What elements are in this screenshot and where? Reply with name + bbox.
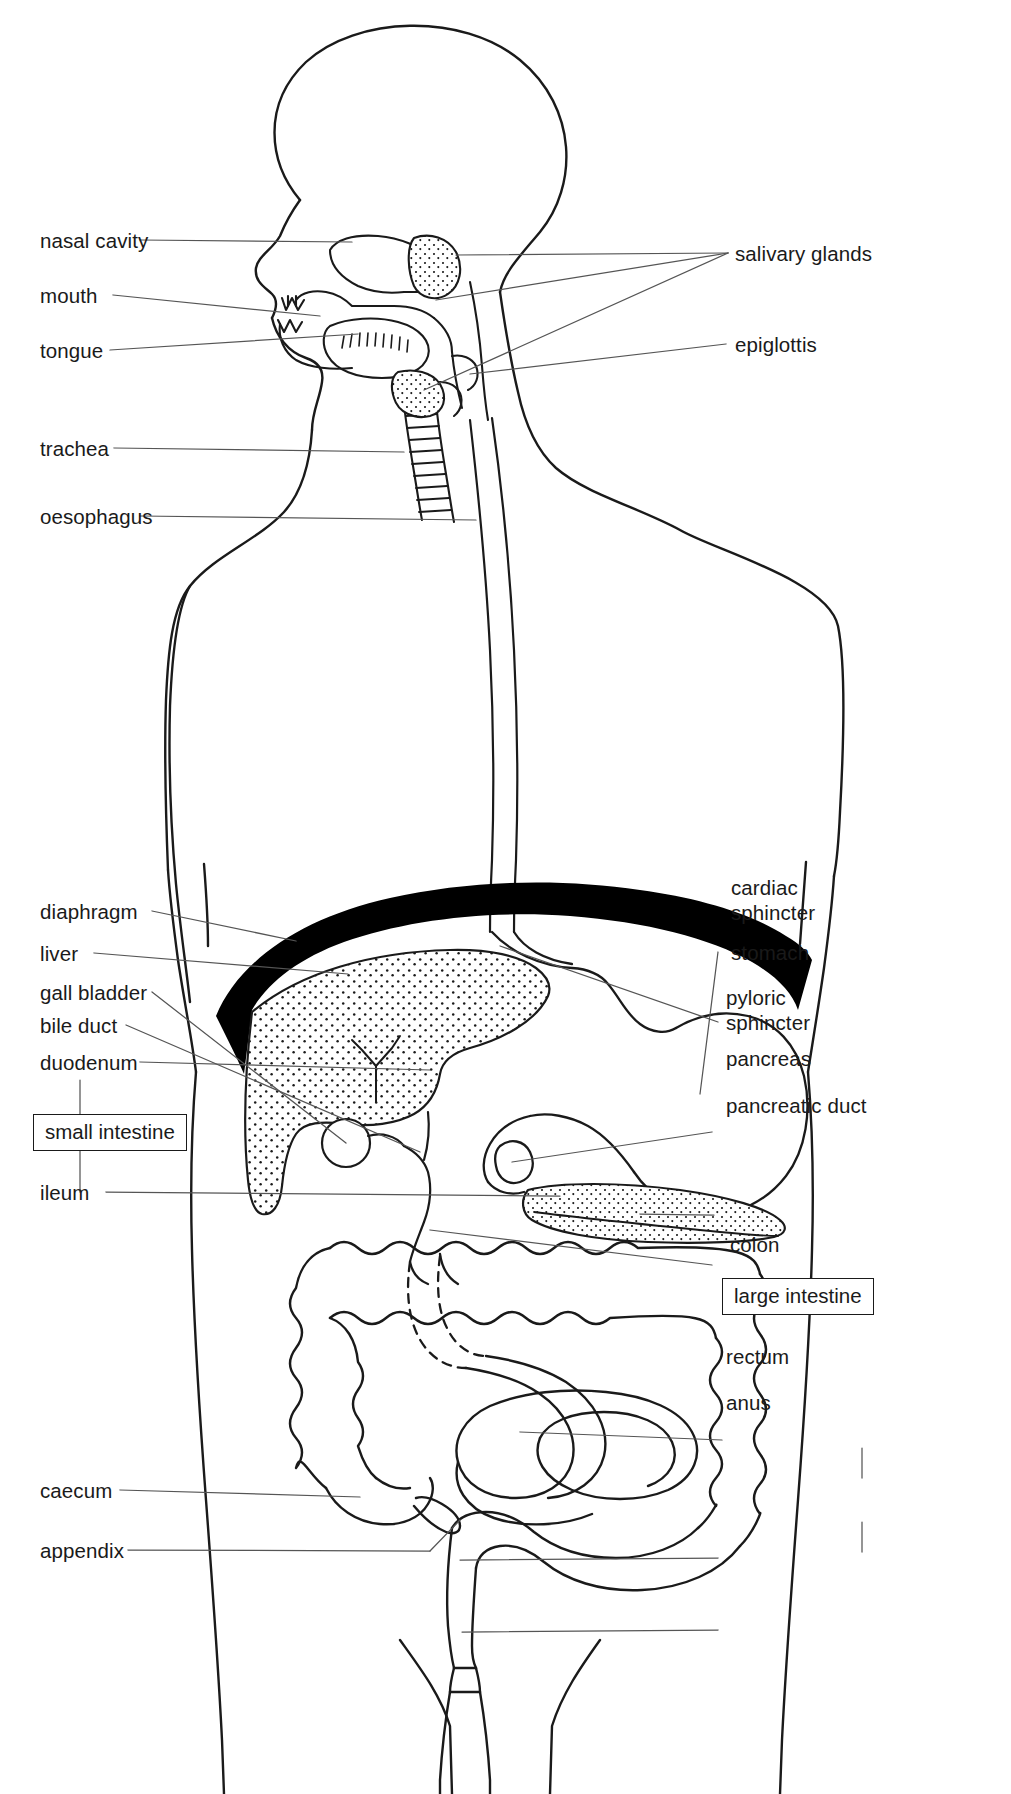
label-diaphragm: diaphragm bbox=[40, 899, 138, 924]
gall-bladder bbox=[322, 1119, 404, 1167]
label-caecum: caecum bbox=[40, 1478, 112, 1503]
label-gall-bladder: gall bladder bbox=[40, 980, 147, 1005]
label-nasal-cavity: nasal cavity bbox=[40, 228, 148, 253]
anus bbox=[440, 1668, 490, 1794]
label-stomach: stomach bbox=[731, 940, 809, 965]
leader-anus bbox=[462, 1630, 718, 1632]
leader-tongue bbox=[110, 334, 358, 350]
leader-salivary-2 bbox=[436, 253, 728, 300]
digestive-system-illustration bbox=[0, 0, 1011, 1794]
label-large-intestine-box: large intestine bbox=[722, 1278, 874, 1315]
label-trachea: trachea bbox=[40, 436, 109, 461]
oesophagus bbox=[470, 418, 517, 932]
label-anus: anus bbox=[726, 1390, 771, 1415]
colon bbox=[290, 1242, 766, 1590]
duodenum bbox=[408, 1254, 486, 1368]
label-pancreatic-duct: pancreatic duct bbox=[726, 1093, 867, 1118]
leader-stomach bbox=[700, 952, 718, 1094]
label-epiglottis: epiglottis bbox=[735, 332, 817, 357]
label-duodenum: duodenum bbox=[40, 1050, 138, 1075]
label-tongue: tongue bbox=[40, 338, 103, 363]
label-rectum: rectum bbox=[726, 1344, 789, 1369]
leader-nasal-cavity bbox=[140, 240, 352, 242]
label-pancreas: pancreas bbox=[726, 1046, 811, 1071]
rectum bbox=[447, 1528, 476, 1668]
label-appendix: appendix bbox=[40, 1538, 124, 1563]
label-liver: liver bbox=[40, 941, 78, 966]
leader-salivary-1 bbox=[456, 253, 728, 255]
label-mouth: mouth bbox=[40, 283, 97, 308]
diagram-canvas: nasal cavity mouth tongue trachea oesoph… bbox=[0, 0, 1011, 1794]
leader-salivary-3 bbox=[424, 253, 728, 390]
liver bbox=[245, 950, 549, 1214]
label-ileum: ileum bbox=[40, 1180, 90, 1205]
leader-ileum bbox=[106, 1192, 560, 1196]
ileum bbox=[456, 1356, 697, 1524]
label-bile-duct: bile duct bbox=[40, 1013, 117, 1038]
leader-appendix bbox=[128, 1550, 430, 1551]
leader-oesophagus bbox=[140, 516, 476, 520]
label-oesophagus: oesophagus bbox=[40, 504, 153, 529]
leader-trachea bbox=[114, 448, 404, 452]
head-anatomy bbox=[278, 236, 488, 522]
leader-pyloric bbox=[512, 1132, 712, 1162]
label-salivary-glands: salivary glands bbox=[735, 241, 872, 266]
bile-duct bbox=[404, 1112, 430, 1262]
label-small-intestine-box: small intestine bbox=[33, 1114, 187, 1151]
label-cardiac-sphincter: cardiac sphincter bbox=[731, 875, 815, 925]
leader-rectum bbox=[460, 1558, 718, 1560]
label-colon: colon bbox=[730, 1232, 780, 1257]
label-pyloric-sphincter: pyloric sphincter bbox=[726, 985, 810, 1035]
leader-caecum bbox=[120, 1490, 360, 1497]
